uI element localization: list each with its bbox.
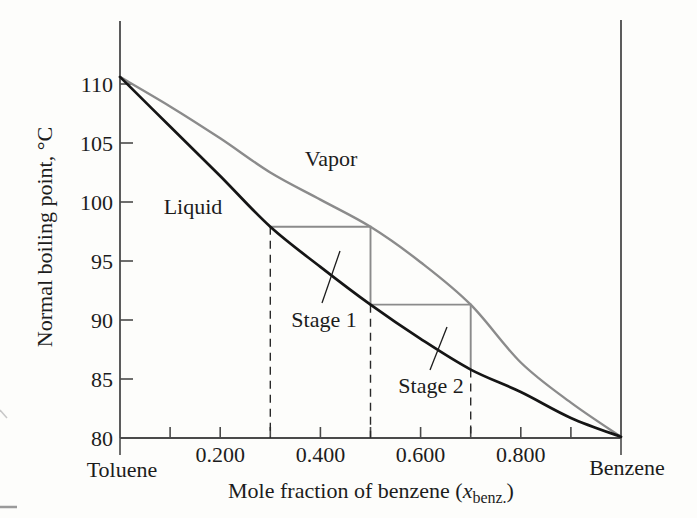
liquid-curve-label: Liquid bbox=[164, 194, 223, 219]
stage-2-label: Stage 2 bbox=[398, 373, 463, 398]
scan-artifacts bbox=[0, 410, 17, 507]
x-tick-label: 0.400 bbox=[296, 442, 346, 467]
x-tick-label: 0.600 bbox=[396, 442, 446, 467]
phase-diagram-figure: 110105100959085800.2000.4000.6000.800 Va… bbox=[0, 0, 697, 518]
x-axis-title: Mole fraction of benzene (xbenz.) bbox=[228, 478, 514, 506]
y-tick-label: 95 bbox=[91, 249, 113, 274]
x-axis-right-endpoint-label: Benzene bbox=[589, 455, 665, 480]
page-edge-smudge bbox=[0, 410, 7, 418]
y-tick-label: 110 bbox=[81, 72, 113, 97]
y-tick-label: 105 bbox=[80, 131, 113, 156]
boiling-point-chart: 110105100959085800.2000.4000.6000.800 Va… bbox=[0, 0, 697, 518]
x-tick-label: 0.800 bbox=[496, 442, 546, 467]
stage-2-pointer-line bbox=[430, 327, 447, 370]
x-tick-label: 0.200 bbox=[195, 442, 245, 467]
y-tick-label: 85 bbox=[91, 367, 113, 392]
y-tick-label: 90 bbox=[91, 308, 113, 333]
stage-1-label: Stage 1 bbox=[291, 307, 356, 332]
vapor-curve-label: Vapor bbox=[305, 146, 358, 171]
x-axis-left-endpoint-label: Toluene bbox=[87, 457, 158, 482]
tick-labels: 110105100959085800.2000.4000.6000.800 bbox=[80, 72, 546, 468]
y-tick-label: 100 bbox=[80, 190, 113, 215]
y-axis-title: Normal boiling point, °C bbox=[32, 127, 57, 347]
stage-1-pointer-line bbox=[322, 251, 340, 303]
y-tick-label: 80 bbox=[91, 426, 113, 451]
